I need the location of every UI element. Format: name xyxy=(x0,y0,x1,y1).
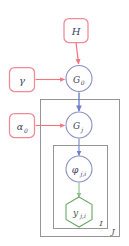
edge-h-to-g0 xyxy=(76,43,79,65)
node-g0-label: G xyxy=(73,75,80,85)
node-g0-subscript: 0 xyxy=(81,79,85,86)
node-gj-label: G xyxy=(73,121,80,131)
node-phi-subscript: j,i xyxy=(79,170,87,178)
plate-outer-label-J: J xyxy=(109,227,115,236)
node-gamma[interactable]: γ xyxy=(10,68,35,92)
node-alpha0-subscript: 0 xyxy=(24,127,28,134)
plate-inner-label-I: I xyxy=(98,219,103,228)
node-y[interactable]: y j,i xyxy=(66,197,92,227)
node-y-shape xyxy=(66,197,92,227)
node-gj[interactable]: G j xyxy=(66,112,92,138)
node-alpha0-label: α xyxy=(17,121,24,132)
node-h[interactable]: H xyxy=(64,19,88,43)
node-alpha0[interactable]: α 0 xyxy=(10,114,35,138)
plate-diagram-canvas: H γ α 0 G 0 G j φ j,i xyxy=(0,0,129,246)
diagram-svg: H γ α 0 G 0 G j φ j,i xyxy=(0,0,129,246)
node-y-subscript: j,i xyxy=(78,212,86,220)
node-gamma-label: γ xyxy=(19,75,25,86)
node-phi[interactable]: φ j,i xyxy=(66,156,92,182)
node-phi-label: φ xyxy=(72,164,79,175)
node-phi-shape xyxy=(66,156,92,182)
node-g0[interactable]: G 0 xyxy=(66,66,92,92)
node-y-label: y xyxy=(72,208,79,218)
node-h-label: H xyxy=(71,26,81,37)
